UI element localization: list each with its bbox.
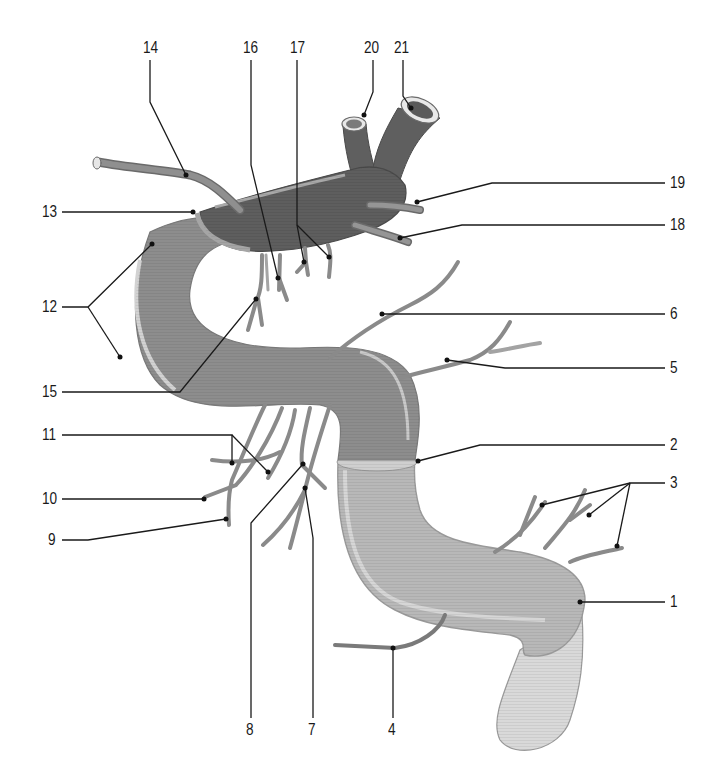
label-14: 14 — [143, 40, 158, 56]
label-21: 21 — [394, 40, 409, 56]
light-j-segment — [337, 453, 585, 656]
label-10: 10 — [42, 491, 57, 507]
label-9: 9 — [48, 532, 56, 548]
label-11: 11 — [42, 427, 56, 443]
dark-arch-segment — [197, 92, 443, 252]
label-12: 12 — [42, 299, 57, 315]
label-4: 4 — [388, 722, 396, 738]
label-5: 5 — [670, 360, 678, 376]
label-19: 19 — [670, 175, 685, 191]
label-16: 16 — [243, 40, 258, 56]
label-1: 1 — [670, 594, 678, 610]
label-8: 8 — [246, 722, 254, 738]
label-7: 7 — [308, 722, 316, 738]
label-13: 13 — [42, 204, 57, 220]
label-15: 15 — [42, 384, 57, 400]
label-17: 17 — [290, 40, 305, 56]
label-20: 20 — [364, 40, 379, 56]
label-3: 3 — [670, 475, 678, 491]
label-2: 2 — [670, 437, 678, 453]
label-6: 6 — [670, 306, 678, 322]
label-18: 18 — [670, 217, 685, 233]
anatomy-diagram — [0, 0, 722, 770]
